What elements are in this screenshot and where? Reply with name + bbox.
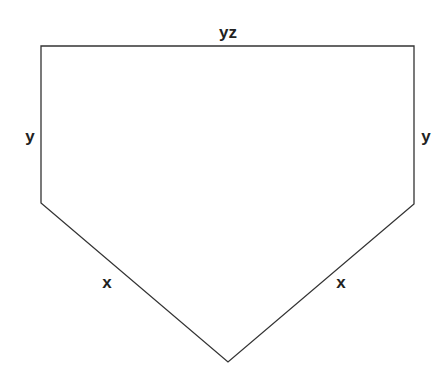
label-lower-left-edge: x (102, 273, 112, 292)
pentagon-diagram: yz y y x x (0, 0, 446, 367)
label-left-edge: y (25, 127, 35, 146)
label-top-edge: yz (219, 23, 237, 42)
pentagon-shape (41, 46, 414, 362)
label-lower-right-edge: x (336, 273, 346, 292)
label-right-edge: y (421, 127, 431, 146)
